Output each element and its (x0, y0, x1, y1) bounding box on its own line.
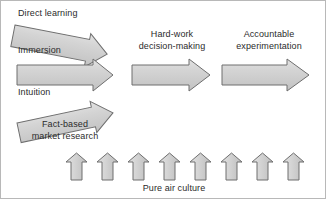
label-direct-learning: Direct learning (18, 8, 78, 19)
label-pure-air-culture: Pure air culture (119, 183, 229, 194)
label-hard-work-line2: decision-making (132, 41, 212, 52)
foundation-arrow-5 (190, 153, 211, 180)
foundation-arrow-2 (97, 153, 118, 180)
foundation-arrow-8 (283, 153, 304, 180)
foundation-arrow-1 (66, 153, 87, 180)
foundation-arrow-4 (159, 153, 180, 180)
stage-arrow-accountable-experimentation (222, 59, 309, 91)
foundation-arrow-7 (252, 153, 273, 180)
label-intuition: Intuition (18, 87, 50, 98)
label-immersion: Immersion (18, 45, 61, 56)
diagram-canvas: Direct learning Immersion Intuition Fact… (0, 0, 326, 199)
stage-arrow-hard-work-decision-making (132, 59, 210, 91)
label-fact-based-line1: Fact-based (10, 119, 120, 130)
foundation-arrow-3 (128, 153, 149, 180)
label-accountable-line2: experimentation (224, 41, 314, 52)
label-hard-work-line1: Hard-work (132, 29, 212, 40)
foundation-arrow-6 (221, 153, 242, 180)
label-fact-based-line2: market research (10, 131, 120, 142)
label-accountable-line1: Accountable (224, 29, 314, 40)
